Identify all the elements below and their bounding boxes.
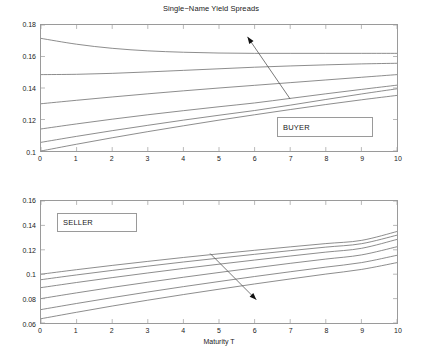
x-tick-label: 0 [38,327,42,334]
data-line-5 [41,255,397,309]
x-tick-label: 10 [394,155,402,162]
x-tick-label: 0 [38,155,42,162]
x-tick-label: 8 [324,155,328,162]
x-tick-label: 10 [394,327,402,334]
y-tick-label: 0.12 [22,246,36,253]
data-line-1 [41,38,397,53]
x-tick-label: 9 [360,327,364,334]
y-tick-label: 0.12 [22,117,36,124]
x-tick-label: 5 [217,327,221,334]
x-tick-label: 4 [181,327,185,334]
data-line-3 [41,75,397,104]
x-tick-label: 7 [289,155,293,162]
y-tick-label: 0.18 [22,21,36,28]
figure-title: Single−Name Yield Spreads [0,4,422,13]
data-line-3 [41,239,397,287]
x-tick-label: 7 [289,327,293,334]
y-tick-label: 0.1 [26,149,36,156]
x-tick-label: 6 [253,327,257,334]
y-tick-label: 0.14 [22,221,36,228]
x-tick-label: 8 [324,327,328,334]
x-axis-label: Maturity T [204,338,235,345]
y-tick-label: 0.16 [22,53,36,60]
x-tick-label: 5 [217,155,221,162]
x-tick-label: 4 [181,155,185,162]
x-tick-label: 1 [74,155,78,162]
annotation-seller: SELLER [57,213,137,232]
direction-arrow [247,37,290,99]
y-tick-label: 0.06 [22,321,36,328]
y-tick-label: 0.08 [22,296,36,303]
data-line-6 [41,263,397,319]
x-tick-label: 2 [110,327,114,334]
annotation-buyer: BUYER [277,117,373,137]
data-line-2 [41,63,397,74]
annotation-buyer-label: BUYER [283,123,310,132]
x-tick-label: 3 [145,155,149,162]
data-line-1 [41,232,397,275]
figure-canvas: Single−Name Yield Spreads 0.10.120.140.1… [0,0,422,356]
y-tick-label: 0.1 [26,271,36,278]
y-tick-label: 0.14 [22,85,36,92]
x-tick-label: 3 [145,327,149,334]
x-tick-label: 1 [74,327,78,334]
x-tick-label: 2 [110,155,114,162]
y-tick-label: 0.16 [22,197,36,204]
x-tick-label: 9 [360,155,364,162]
x-tick-label: 6 [253,155,257,162]
annotation-seller-label: SELLER [63,218,93,227]
